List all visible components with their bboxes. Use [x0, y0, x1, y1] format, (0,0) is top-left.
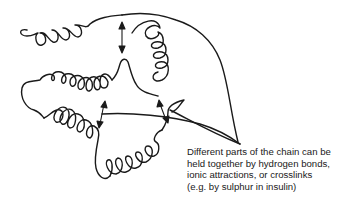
- double-arrow-icon: [97, 101, 107, 128]
- caption-line: (e.g. by sulphur in insulin): [187, 181, 364, 193]
- caption-line: ionic attractions, or crosslinks: [187, 169, 364, 181]
- helix-right-center: [132, 21, 168, 81]
- chain-middle-bump: [112, 59, 158, 96]
- double-arrow-icon: [157, 100, 169, 123]
- helix-bottom: [106, 130, 162, 176]
- diagram-caption: Different parts of the chain can be held…: [187, 146, 364, 192]
- chain-top-arc: [122, 14, 238, 142]
- helix-middle-left: [22, 72, 112, 118]
- caption-line: held together by hydrogen bonds,: [187, 158, 364, 170]
- chain-right-tail: [102, 100, 240, 144]
- helix-top-left: [21, 15, 122, 45]
- double-arrow-icon: [119, 22, 125, 53]
- caption-line: Different parts of the chain can be: [187, 146, 364, 158]
- helix-lower-left: [44, 107, 110, 178]
